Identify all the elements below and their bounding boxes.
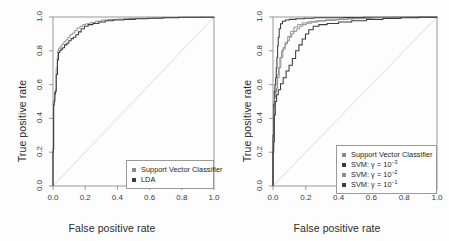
legend-swatch-icon [342, 173, 346, 177]
y-tick-label: 0.2 [255, 144, 264, 160]
legend-right: Support Vector ClassifierSVM: γ = 10−3SV… [336, 145, 437, 194]
y-tick-label: 0.0 [35, 178, 44, 194]
roc-panel-left: False positive rate True positive rate 0… [0, 0, 224, 241]
y-tick-label: 1.0 [35, 9, 44, 25]
legend-swatch-icon [132, 168, 136, 172]
legend-item-label: SVM: γ = 10−2 [351, 169, 398, 179]
legend-item: LDA [132, 175, 207, 184]
legend-left: Support Vector ClassifierLDA [126, 160, 214, 189]
x-tick-label: 0.8 [176, 193, 187, 202]
legend-item-label: SVM: γ = 10−1 [351, 179, 398, 189]
x-axis-title-left: False positive rate [0, 222, 224, 234]
y-tick-label: 0.4 [35, 110, 44, 126]
legend-item-label: LDA [141, 175, 155, 184]
x-tick-label: 1.0 [208, 193, 219, 202]
y-axis-title-right: True positive rate [241, 61, 253, 181]
y-tick-label: 0.8 [255, 42, 264, 58]
legend-swatch-icon [132, 178, 136, 182]
x-tick-label: 1.0 [431, 193, 442, 202]
roc-panel-right: False positive rate True positive rate 0… [225, 0, 449, 241]
y-tick-label: 0.4 [255, 110, 264, 126]
y-tick-label: 0.6 [255, 76, 264, 92]
y-tick-label: 0.2 [35, 144, 44, 160]
x-tick-label: 0.2 [300, 193, 311, 202]
x-tick-label: 0.8 [399, 193, 410, 202]
y-tick-label: 0.6 [35, 76, 44, 92]
x-tick-label: 0.4 [112, 193, 123, 202]
legend-swatch-icon [342, 153, 346, 157]
x-tick-label: 0.0 [47, 193, 58, 202]
legend-item-label: SVM: γ = 10−3 [351, 159, 398, 169]
y-tick-label: 0.0 [255, 178, 264, 194]
legend-item: Support Vector Classifier [342, 150, 430, 159]
x-tick-label: 0.2 [80, 193, 91, 202]
y-tick-label: 0.8 [35, 42, 44, 58]
legend-item: SVM: γ = 10−2 [342, 170, 430, 179]
legend-item: Support Vector Classifier [132, 165, 207, 174]
roc-figure: False positive rate True positive rate 0… [0, 0, 449, 241]
y-tick-label: 1.0 [255, 9, 264, 25]
legend-swatch-icon [342, 163, 346, 167]
x-tick-label: 0.0 [267, 193, 278, 202]
y-axis-title-left: True positive rate [16, 61, 28, 181]
x-tick-label: 0.6 [144, 193, 155, 202]
legend-item-label: Support Vector Classifier [351, 150, 433, 159]
legend-item: SVM: γ = 10−3 [342, 160, 430, 169]
x-axis-title-right: False positive rate [225, 222, 449, 234]
legend-swatch-icon [342, 183, 346, 187]
legend-item-label: Support Vector Classifier [141, 165, 223, 174]
legend-item: SVM: γ = 10−1 [342, 180, 430, 189]
x-tick-label: 0.6 [366, 193, 377, 202]
x-tick-label: 0.4 [333, 193, 344, 202]
